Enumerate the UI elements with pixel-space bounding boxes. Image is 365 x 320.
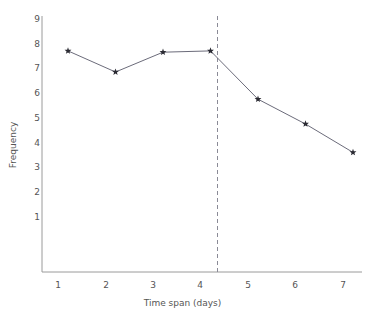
- y-tick-label-1: 1: [26, 212, 40, 222]
- x-tick-label-6: 6: [287, 280, 303, 290]
- x-tick-label-5: 5: [240, 280, 256, 290]
- y-tick-label-4: 4: [26, 138, 40, 148]
- chart-container: 9 8 7 6 5 4 3 2 1 1 2 3 4 5 6 7 Time spa…: [0, 0, 365, 320]
- data-line: [68, 51, 353, 152]
- y-tick-label-5: 5: [26, 113, 40, 123]
- x-axis-title: Time span (days): [0, 298, 365, 308]
- data-point-markers: [65, 47, 357, 155]
- y-tick-label-2: 2: [26, 187, 40, 197]
- data-point-marker: [160, 49, 167, 56]
- data-point-marker: [112, 68, 119, 75]
- x-tick-label-2: 2: [98, 280, 114, 290]
- plot-area: [0, 0, 365, 320]
- y-tick-label-3: 3: [26, 162, 40, 172]
- x-tick-label-3: 3: [145, 280, 161, 290]
- data-point-marker: [350, 149, 357, 156]
- y-axis-title: Frequency: [8, 110, 18, 180]
- x-tick-label-7: 7: [335, 280, 351, 290]
- y-tick-label-8: 8: [26, 39, 40, 49]
- x-tick-label-4: 4: [192, 280, 208, 290]
- data-point-marker: [65, 47, 72, 54]
- y-tick-label-9: 9: [26, 14, 40, 24]
- y-tick-label-6: 6: [26, 88, 40, 98]
- x-tick-label-1: 1: [50, 280, 66, 290]
- y-tick-label-7: 7: [26, 63, 40, 73]
